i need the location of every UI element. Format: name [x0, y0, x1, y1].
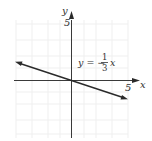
right-arrow-icon: [121, 95, 129, 100]
equation-right: x: [110, 57, 116, 68]
y-axis-label: y: [61, 5, 68, 16]
equation-numerator: 1: [102, 52, 107, 62]
y-tick-label: 5: [64, 17, 70, 28]
graph: y 5 5 x y = − 1 3 x: [0, 0, 152, 141]
x-axis-arrow-icon: [132, 78, 140, 83]
x-tick-label: 5: [125, 82, 131, 93]
equation-denominator: 3: [102, 63, 107, 73]
y-axis: [69, 11, 74, 138]
x-axis-label: x: [140, 79, 146, 90]
